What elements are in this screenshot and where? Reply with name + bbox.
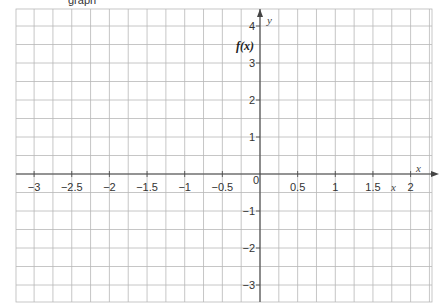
y-tick-label: 2 [249,94,255,106]
x-tick-label: 2 [408,181,414,193]
x-tick-label: −3 [28,181,41,193]
y-tick-label: 4 [249,20,255,32]
y-tick-label: −1 [242,205,255,217]
grid-lines [16,9,432,302]
y-axis-label: y [266,14,272,26]
x-tick-label: 1 [332,181,338,193]
function-label: f(x) [236,39,254,53]
origin-label: 0 [253,174,259,186]
x-tick-label: −1 [178,181,191,193]
x-axis-arrow-icon [431,171,439,177]
y-tick-label: −3 [242,279,255,291]
x-tick-label: −2 [103,181,116,193]
y-tick-label: 3 [249,57,255,69]
y-tick-label: 1 [249,131,255,143]
graph-paper: graph −3−2.5−2−1.5−1−0.50.511.52 −3−2−11… [0,0,439,307]
x-tick-label: −0.5 [211,181,233,193]
cut-off-heading: graph [68,0,96,6]
x-tick-label: −1.5 [136,181,158,193]
y-axis-arrow-icon [257,9,263,17]
y-tick-label: −2 [242,242,255,254]
x-axis-label: x [415,162,421,174]
x-axis-label-inline: x [390,181,396,193]
x-tick-label: 0.5 [290,181,305,193]
x-tick-label: −2.5 [61,181,83,193]
x-tick-label: 1.5 [365,181,380,193]
